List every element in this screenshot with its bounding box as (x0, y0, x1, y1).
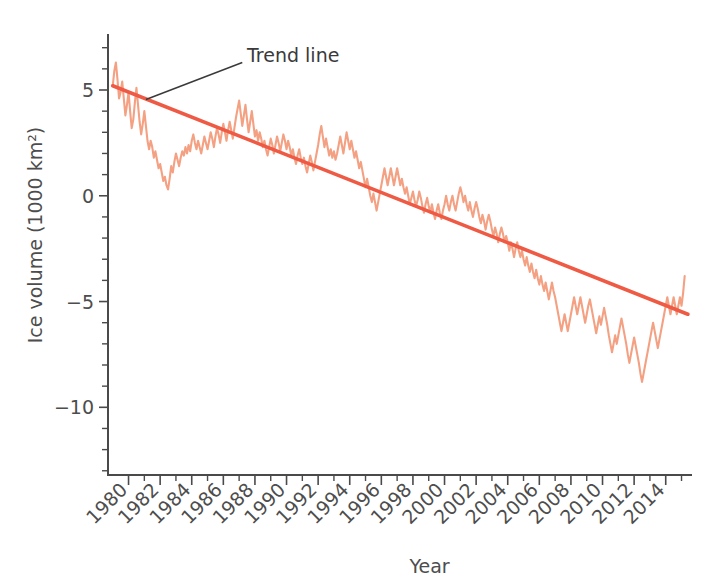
axis-lines (108, 35, 691, 475)
y-tick-label: −5 (66, 291, 94, 313)
y-tick-label: 0 (82, 185, 94, 207)
data-series-group (113, 63, 685, 382)
tick-labels-group: 50−5−10198019821984198619881990199219941… (54, 79, 669, 528)
data-series-line (113, 63, 685, 382)
trend-line-leader (146, 63, 242, 100)
trend-line-annotation-label: Trend line (246, 44, 339, 66)
y-axis-title: Ice volume (1000 km²) (24, 127, 46, 344)
annotation-group: Trend line (146, 44, 339, 99)
trend-line (113, 86, 688, 314)
y-tick-label: 5 (82, 79, 94, 101)
chart-svg: 50−5−10198019821984198619881990199219941… (0, 0, 723, 588)
chart-container: 50−5−10198019821984198619881990199219941… (0, 0, 723, 588)
x-axis-title: Year (408, 555, 449, 577)
axes-group (108, 35, 691, 475)
y-tick-label: −10 (54, 396, 94, 418)
trend-line-group (113, 86, 688, 314)
